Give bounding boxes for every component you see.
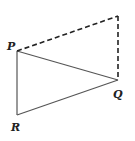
background [0, 0, 135, 141]
label-q: Q [113, 88, 123, 101]
label-r: R [10, 121, 20, 134]
geometry-diagram: P Q R [0, 0, 135, 141]
label-p: P [6, 40, 16, 53]
